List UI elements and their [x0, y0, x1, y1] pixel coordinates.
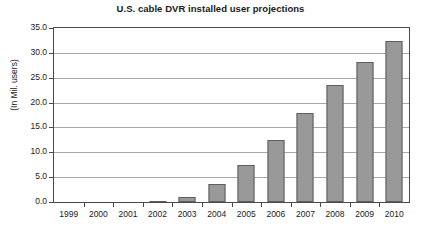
bar-2007 [297, 113, 314, 202]
chart-title: U.S. cable DVR installed user projection… [0, 3, 421, 14]
y-tick-mark [49, 103, 53, 104]
y-tick-label: 30.0 [1, 47, 47, 57]
bar-slot [84, 28, 114, 202]
bar-chart: U.S. cable DVR installed user projection… [0, 0, 421, 236]
x-tick-mark [172, 203, 173, 207]
bar-slot [113, 28, 143, 202]
x-tick-mark [320, 203, 321, 207]
x-tick-mark [261, 203, 262, 207]
bars-group [54, 28, 409, 202]
y-tick-mark [49, 177, 53, 178]
bar-slot [202, 28, 232, 202]
bar-slot [291, 28, 321, 202]
bar-2004 [208, 184, 225, 202]
bar-slot [379, 28, 409, 202]
y-tick-mark [49, 28, 53, 29]
bar-2003 [179, 197, 196, 202]
bar-slot [261, 28, 291, 202]
y-tick-label: 25.0 [1, 72, 47, 82]
y-tick-label: 5.0 [1, 171, 47, 181]
y-tick-label: 15.0 [1, 121, 47, 131]
x-tick-mark [379, 203, 380, 207]
x-tick-label-2010: 2010 [374, 209, 414, 219]
x-tick-mark [143, 203, 144, 207]
y-tick-mark [49, 127, 53, 128]
x-tick-mark [291, 203, 292, 207]
bar-slot [172, 28, 202, 202]
y-tick-mark [49, 202, 53, 203]
bar-2002 [149, 201, 166, 203]
bar-slot [54, 28, 84, 202]
bar-2010 [386, 41, 403, 202]
y-tick-mark [49, 53, 53, 54]
y-tick-mark [49, 78, 53, 79]
bar-slot [320, 28, 350, 202]
x-tick-mark [232, 203, 233, 207]
y-tick-label: 10.0 [1, 146, 47, 156]
bar-2006 [267, 140, 284, 202]
x-tick-mark [202, 203, 203, 207]
y-tick-label: 0.0 [1, 196, 47, 206]
y-tick-mark [49, 152, 53, 153]
x-tick-mark [350, 203, 351, 207]
bar-2008 [327, 85, 344, 202]
bar-2005 [238, 165, 255, 202]
bar-2009 [356, 62, 373, 202]
y-tick-label: 20.0 [1, 97, 47, 107]
bar-slot [232, 28, 262, 202]
y-tick-label: 35.0 [1, 22, 47, 32]
x-tick-mark [84, 203, 85, 207]
bar-slot [350, 28, 380, 202]
bar-slot [143, 28, 173, 202]
x-tick-mark [113, 203, 114, 207]
